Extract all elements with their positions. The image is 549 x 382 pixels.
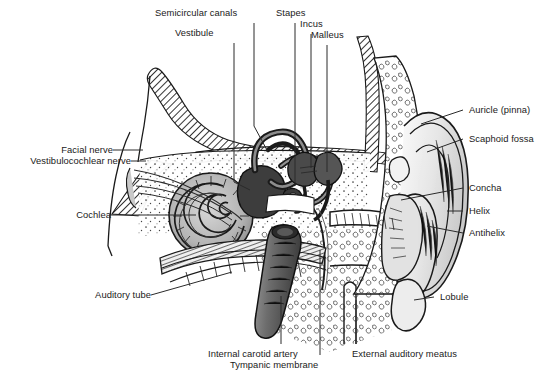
label-antihelix: Antihelix: [469, 227, 505, 238]
label-internal-carotid-artery: Internal carotid artery: [208, 348, 298, 359]
ear-anatomy-illustration: [0, 0, 549, 382]
label-tympanic-membrane: Tympanic membrane: [230, 359, 318, 370]
label-facial-nerve: Facial nerve: [48, 144, 113, 155]
label-scaphoid-fossa: Scaphoid fossa: [469, 133, 534, 144]
label-incus: Incus: [300, 18, 323, 29]
leader-auditory-tube: [151, 272, 232, 295]
ear-anatomy-figure: Semicircular canals Vestibule Stapes Inc…: [0, 0, 549, 382]
label-vestibulocochlear-nerve: Vestibulocochlear nerve: [11, 155, 131, 166]
label-cochlea: Cochlea: [66, 209, 111, 220]
label-auditory-tube: Auditory tube: [83, 289, 151, 300]
label-vestibule: Vestibule: [175, 27, 214, 38]
label-semicircular-canals: Semicircular canals: [155, 7, 237, 18]
label-lobule: Lobule: [440, 291, 468, 302]
label-stapes: Stapes: [276, 7, 306, 18]
label-malleus: Malleus: [311, 29, 344, 40]
leader-semicircular-canals: [254, 23, 268, 152]
label-concha: Concha: [469, 182, 502, 193]
label-helix: Helix: [469, 205, 490, 216]
label-external-auditory-meatus: External auditory meatus: [352, 348, 457, 359]
label-auricle-pinna: Auricle (pinna): [469, 104, 530, 115]
